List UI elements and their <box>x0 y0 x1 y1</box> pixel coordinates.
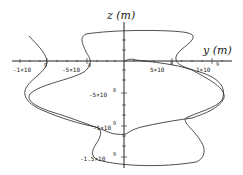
z-axis-label: z (m) <box>106 9 135 22</box>
y-tick-exponent: 9 <box>113 120 116 126</box>
y-tick-label: -1.5×10 <box>80 155 106 162</box>
x-tick-label: 5×10 <box>150 66 165 73</box>
y-tick-label: -1×10 <box>93 124 111 131</box>
x-tick-label: -1×10 <box>13 66 31 73</box>
x-tick-label: 1×10 <box>196 66 211 73</box>
y-tick-exponent: 9 <box>113 151 116 157</box>
x-tick-exponent: 9 <box>44 62 47 68</box>
y-axis-label: y (m) <box>202 44 232 57</box>
x-tick-label: -5×10 <box>62 66 80 73</box>
y-tick-exponent: 8 <box>113 87 116 93</box>
trajectory-plot: -1×10 9 -5×10 8 5×10 8 1×10 9 -5×10 8 -1… <box>0 0 243 175</box>
plot-canvas: -1×10 9 -5×10 8 5×10 8 1×10 9 -5×10 8 -1… <box>0 0 243 175</box>
x-tick-exponent: 8 <box>170 60 173 66</box>
y-tick-label: -5×10 <box>89 91 107 98</box>
x-tick-exponent: 9 <box>216 61 219 67</box>
x-tick-exponent: 8 <box>88 62 91 68</box>
